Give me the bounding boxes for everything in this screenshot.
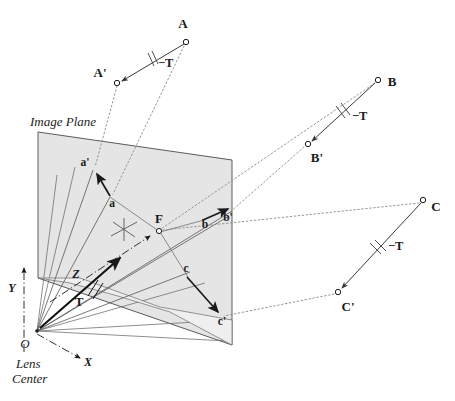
tick-A <box>148 51 158 66</box>
segment-A-to-Aprime <box>122 44 184 81</box>
label-origin-O: O <box>20 336 30 351</box>
label-point-c: c <box>183 262 188 274</box>
origin-point-O <box>35 329 39 333</box>
label-minus-T-C: −T <box>388 239 404 253</box>
tick-C <box>370 240 386 254</box>
marker-Ap <box>114 80 119 85</box>
label-minus-T-A: −T <box>158 56 174 70</box>
label-point-cp: c' <box>218 315 226 327</box>
label-point-a: a <box>109 197 115 209</box>
label-point-bp: b' <box>223 211 233 223</box>
marker-Cp <box>335 289 340 294</box>
label-point-b: b <box>202 218 208 230</box>
dotted-Cprime-to-cprime <box>224 294 334 316</box>
figure-container: A A' B B' C C' a' a b b' c c' F −T −T −T… <box>0 0 455 401</box>
segment-C-to-Cprime <box>342 203 421 288</box>
epipolar-geometry-diagram: A A' B B' C C' a' a b b' c c' F −T −T −T… <box>0 0 455 401</box>
label-axis-Y: Y <box>8 281 17 295</box>
axis-X-line <box>37 334 80 358</box>
point-F-marker <box>156 228 161 233</box>
label-point-Bp: B' <box>311 150 323 165</box>
dotted-Bprime-to-bprime <box>229 147 304 213</box>
label-vector-T: T <box>75 294 84 309</box>
marker-Bp <box>305 141 310 146</box>
label-point-Ap: A' <box>94 65 107 80</box>
label-axis-X: X <box>83 355 93 369</box>
label-point-A: A <box>178 16 188 31</box>
label-lens-center-line1: Lens <box>15 356 41 371</box>
label-point-B: B <box>388 74 397 89</box>
label-point-C: C <box>431 199 440 214</box>
marker-B <box>375 77 380 82</box>
label-minus-T-B: −T <box>352 109 368 123</box>
label-point-F: F <box>155 211 163 226</box>
label-point-Cp: C' <box>342 299 355 314</box>
label-lens-center-line2: Center <box>12 371 48 386</box>
tick-B <box>336 103 350 118</box>
label-point-ap: a' <box>81 156 90 168</box>
marker-C <box>420 197 425 202</box>
marker-A <box>183 39 188 44</box>
label-axis-Z: Z <box>71 267 80 281</box>
label-image-plane: Image Plane <box>29 114 96 129</box>
